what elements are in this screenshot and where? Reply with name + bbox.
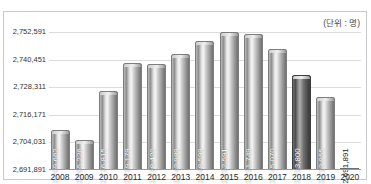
bar-top-cap	[76, 141, 93, 144]
x-axis-label-2018: 2018	[291, 172, 313, 182]
bar-2018[interactable]: 2,733,800	[292, 75, 311, 170]
bar-slot-2011[interactable]: 2,739,179	[121, 32, 143, 170]
x-axis-label-2014: 2014	[194, 172, 216, 182]
bar-2009[interactable]: 2,705,226	[75, 140, 94, 170]
bar-2014[interactable]: 2,748,599	[195, 41, 214, 170]
bar-series: 2,709,6622,705,2262,726,8152,739,1792,73…	[49, 32, 361, 170]
bar-2012[interactable]: 2,738,420	[147, 64, 166, 170]
x-axis-label-2019: 2019	[315, 172, 337, 182]
bar-slot-2015[interactable]: 2,752,591	[218, 32, 240, 170]
x-axis-label-2017: 2017	[266, 172, 288, 182]
bar-top-cap	[221, 33, 238, 36]
truncated-top-text	[0, 0, 371, 8]
unit-caption: (단위 : 명)	[323, 16, 360, 28]
x-axis-label-2011: 2011	[121, 172, 143, 182]
bar-top-cap	[245, 35, 262, 38]
bar-top-cap	[317, 98, 334, 101]
chart-screenshot: (단위 : 명) 2,752,5912,740,4512,728,3112,71…	[0, 0, 371, 184]
bar-slot-2012[interactable]: 2,738,420	[146, 32, 168, 170]
x-axis-label-2016: 2016	[242, 172, 264, 182]
bar-slot-2008[interactable]: 2,709,662	[49, 32, 71, 170]
bar-slot-2013[interactable]: 2,742,989	[170, 32, 192, 170]
bar-2013[interactable]: 2,742,989	[171, 54, 190, 170]
bar-top-cap	[148, 65, 165, 68]
bar-top-cap	[196, 42, 213, 45]
x-axis-label-2015: 2015	[218, 172, 240, 182]
y-axis-tick-label: 2,704,031	[6, 137, 46, 146]
bar-2016[interactable]: 2,751,749	[244, 34, 263, 170]
bar-top-cap	[100, 92, 117, 95]
x-axis-label-2013: 2013	[170, 172, 192, 182]
bar-2008[interactable]: 2,709,662	[51, 130, 70, 170]
x-axis-label-2008: 2008	[49, 172, 71, 182]
y-axis-tick-label: 2,752,591	[6, 27, 46, 36]
chart-frame: (단위 : 명) 2,752,5912,740,4512,728,3112,71…	[3, 11, 367, 180]
x-axis-label-2009: 2009	[73, 172, 95, 182]
bar-slot-2020[interactable]: 2,691,891	[339, 32, 361, 170]
bar-slot-2009[interactable]: 2,705,226	[73, 32, 95, 170]
y-axis-tick-label: 2,716,171	[6, 110, 46, 119]
bar-top-cap	[52, 131, 69, 134]
bar-slot-2014[interactable]: 2,748,599	[194, 32, 216, 170]
bar-top-cap	[293, 76, 310, 79]
x-axis-label-2020: 2020	[339, 172, 361, 182]
bar-top-cap	[124, 64, 141, 67]
x-axis-line	[49, 169, 361, 170]
bar-2019[interactable]: 2,723,955	[316, 97, 335, 170]
bar-slot-2016[interactable]: 2,751,749	[242, 32, 264, 170]
y-axis-tick-label: 2,691,891	[6, 165, 46, 174]
bar-top-cap	[269, 50, 286, 53]
bar-slot-2017[interactable]: 2,745,070	[266, 32, 288, 170]
y-axis-tick-label: 2,728,311	[6, 82, 46, 91]
bar-slot-2010[interactable]: 2,726,815	[97, 32, 119, 170]
bar-slot-2019[interactable]: 2,723,955	[315, 32, 337, 170]
x-axis-labels: 2008200920102011201220132014201520162017…	[49, 172, 361, 182]
bar-2011[interactable]: 2,739,179	[123, 63, 142, 171]
bar-2010[interactable]: 2,726,815	[99, 91, 118, 170]
bar-2017[interactable]: 2,745,070	[268, 49, 287, 170]
bar-top-cap	[172, 55, 189, 58]
plot-area: 2,752,5912,740,4512,728,3112,716,1712,70…	[49, 32, 361, 170]
x-axis-label-2012: 2012	[146, 172, 168, 182]
bar-2015[interactable]: 2,752,591	[220, 32, 239, 170]
y-axis-tick-label: 2,740,451	[6, 55, 46, 64]
bar-slot-2018[interactable]: 2,733,800	[291, 32, 313, 170]
x-axis-label-2010: 2010	[97, 172, 119, 182]
